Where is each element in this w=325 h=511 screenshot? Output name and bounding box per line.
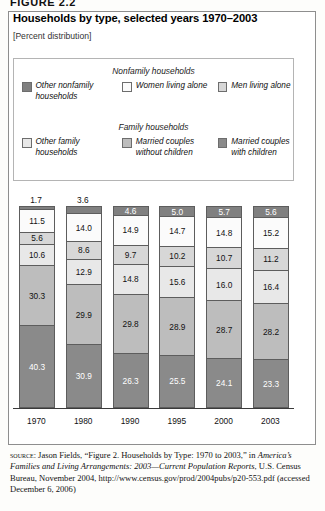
bar-segment[interactable]: 14.0 — [67, 214, 101, 242]
bar-segment[interactable]: 5.6 — [254, 207, 288, 218]
segment-value-label: 26.3 — [123, 376, 139, 386]
x-axis-tick-label: 2000 — [200, 416, 247, 426]
stacked-bar[interactable]: 11.55.610.630.340.3 — [19, 206, 55, 408]
stacked-bar[interactable]: 5.714.810.716.028.724.1 — [206, 206, 242, 408]
stacked-bar-chart: 1.711.55.610.630.340.33.614.08.612.929.9… — [13, 190, 294, 430]
segment-value-label: 15.6 — [169, 277, 185, 287]
source-note: source: Jason Fields, “Figure 2. Househo… — [10, 450, 316, 496]
segment-value-label: 24.1 — [216, 378, 232, 388]
bar-column[interactable]: 4.614.99.714.829.826.3 — [107, 208, 154, 408]
segment-value-label: 5.0 — [172, 207, 184, 217]
legend-item-label: Married couples with children — [231, 137, 293, 158]
segment-value-label: 5.7 — [218, 207, 230, 217]
source-line-1: Jason Fields, “Figure 2. Households by T… — [36, 450, 256, 460]
stacked-bar[interactable]: 5.014.710.215.628.925.5 — [159, 206, 195, 408]
x-axis-tick-label: 1995 — [153, 416, 200, 426]
legend-item-other-nonfamily-households[interactable]: Other nonfamily households — [14, 81, 122, 102]
bar-segment[interactable]: 11.5 — [20, 210, 54, 233]
segment-value-label: 14.8 — [123, 274, 139, 284]
x-axis-tick-label: 2003 — [247, 416, 294, 426]
segment-value-label: 15.2 — [263, 228, 279, 238]
x-axis-tick-label: 1990 — [107, 416, 154, 426]
bar-segment[interactable]: 14.8 — [207, 218, 241, 248]
bar-segment[interactable]: 5.6 — [20, 233, 54, 244]
segment-value-label: 10.7 — [216, 253, 232, 263]
source-keyword: source: — [10, 451, 36, 460]
bar-segment[interactable]: 28.2 — [254, 304, 288, 360]
stacked-bar[interactable]: 5.615.211.216.428.223.3 — [253, 206, 289, 408]
bar-segment[interactable]: 10.6 — [20, 245, 54, 266]
bar-segment[interactable]: 16.0 — [207, 269, 241, 301]
segment-value-label: 5.6 — [31, 233, 43, 243]
bar-column[interactable]: 5.714.810.716.028.724.1 — [200, 208, 247, 408]
segment-value-label: 40.3 — [29, 362, 45, 372]
legend-row-nonfamily: Other nonfamily households Women living … — [14, 81, 293, 102]
bar-segment[interactable]: 14.8 — [114, 265, 148, 295]
bar-segment[interactable]: 40.3 — [20, 326, 54, 407]
segment-value-label: 28.2 — [263, 327, 279, 337]
x-axis-tick-label: 1970 — [13, 416, 60, 426]
bar-segment[interactable]: 28.7 — [207, 301, 241, 358]
legend-item-label: Other family households — [36, 137, 123, 158]
bar-segment[interactable]: 8.6 — [67, 242, 101, 259]
bar-segment[interactable] — [67, 207, 101, 214]
bar-segment[interactable]: 14.7 — [160, 217, 194, 246]
bar-segment[interactable]: 4.6 — [114, 207, 148, 216]
segment-value-label: 10.2 — [169, 251, 185, 261]
bar-segment[interactable]: 10.2 — [160, 247, 194, 267]
segment-value-label-outside: 3.6 — [66, 195, 100, 205]
bar-segment[interactable]: 26.3 — [114, 354, 148, 407]
x-axis-line — [13, 408, 294, 409]
segment-value-label: 12.9 — [76, 267, 92, 277]
bar-segment[interactable]: 30.9 — [67, 345, 101, 407]
segment-value-label: 4.6 — [125, 207, 137, 216]
bar-segment[interactable]: 30.3 — [20, 266, 54, 327]
bar-segment[interactable]: 29.9 — [67, 285, 101, 345]
bar-column[interactable]: 3.614.08.612.929.930.9 — [60, 208, 107, 408]
segment-value-label: 30.9 — [76, 371, 92, 381]
legend-swatch-icon — [218, 138, 228, 148]
bar-segment[interactable]: 10.7 — [207, 248, 241, 269]
bar-column[interactable]: 1.711.55.610.630.340.3 — [13, 208, 60, 408]
bar-segment[interactable]: 5.7 — [207, 207, 241, 218]
bar-segment[interactable]: 15.6 — [160, 267, 194, 298]
segment-value-label: 11.2 — [263, 254, 279, 264]
bar-segment[interactable]: 12.9 — [67, 260, 101, 286]
bar-segment[interactable]: 9.7 — [114, 246, 148, 265]
stacked-bar[interactable]: 14.08.612.929.930.9 — [66, 206, 102, 408]
bar-column[interactable]: 5.014.710.215.628.925.5 — [153, 208, 200, 408]
legend-item-married-couples-without-children[interactable]: Married couples without children — [122, 137, 217, 158]
bar-segment[interactable]: 5.0 — [160, 207, 194, 217]
bar-segment[interactable]: 11.2 — [254, 249, 288, 271]
legend-item-married-couples-with-children[interactable]: Married couples with children — [218, 137, 293, 158]
legend-item-men-living-alone[interactable]: Men living alone — [218, 81, 293, 102]
bar-segment[interactable]: 25.5 — [160, 356, 194, 407]
legend-swatch-icon — [122, 82, 132, 92]
chart-title: Households by type, selected years 1970–… — [13, 12, 257, 24]
bar-segment[interactable]: 15.2 — [254, 218, 288, 248]
bar-segment[interactable]: 28.9 — [160, 298, 194, 356]
legend-swatch-icon — [22, 138, 32, 148]
legend-swatch-icon — [22, 82, 32, 92]
segment-value-label: 14.0 — [76, 223, 92, 233]
legend-item-other-family-households[interactable]: Other family households — [14, 137, 122, 158]
legend-item-women-living-alone[interactable]: Women living alone — [122, 81, 217, 102]
legend-swatch-icon — [122, 138, 132, 148]
figure-label: FIGURE 2.2 — [10, 0, 76, 8]
stacked-bar[interactable]: 4.614.99.714.829.826.3 — [113, 206, 149, 408]
bar-column[interactable]: 5.615.211.216.428.223.3 — [247, 208, 294, 408]
bar-segment[interactable]: 14.9 — [114, 216, 148, 246]
segment-value-label: 10.6 — [29, 250, 45, 260]
segment-value-label: 14.8 — [216, 228, 232, 238]
legend-group-title-family: Family households — [14, 122, 293, 132]
bar-segment[interactable]: 16.4 — [254, 271, 288, 304]
segment-value-label: 8.6 — [78, 245, 90, 255]
chart-legend: Nonfamily households Other nonfamily hou… — [13, 58, 294, 181]
x-axis-tick-labels: 197019801990199520002003 — [13, 416, 294, 426]
bar-group: 1.711.55.610.630.340.33.614.08.612.929.9… — [13, 208, 294, 408]
segment-value-label-outside: 1.7 — [19, 195, 53, 205]
bar-segment[interactable]: 23.3 — [254, 360, 288, 407]
legend-swatch-icon — [218, 82, 228, 92]
bar-segment[interactable]: 29.8 — [114, 295, 148, 355]
bar-segment[interactable]: 24.1 — [207, 359, 241, 407]
